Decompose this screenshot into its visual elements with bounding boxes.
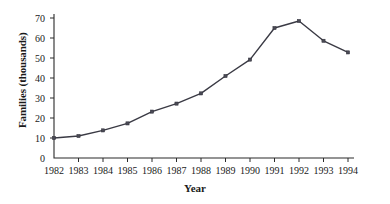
- y-tick-label: 0: [40, 153, 45, 164]
- x-tick-label: 1993: [314, 165, 334, 176]
- data-point-marker: [150, 110, 153, 113]
- data-marker-group: [52, 19, 349, 139]
- data-line-families: [54, 21, 348, 138]
- x-tick-label: 1994: [338, 165, 358, 176]
- x-tick-label: 1986: [142, 165, 162, 176]
- data-point-marker: [126, 122, 129, 125]
- data-point-marker: [77, 134, 80, 137]
- line-chart-figure: Families (thousands) 010203040506070 198…: [0, 0, 390, 204]
- data-point-marker: [273, 26, 276, 29]
- data-point-marker: [199, 92, 202, 95]
- data-point-marker: [297, 19, 300, 22]
- data-point-marker: [175, 102, 178, 105]
- data-point-marker: [52, 136, 55, 139]
- y-tick-label: 30: [35, 93, 45, 104]
- x-axis-title: Year: [0, 182, 390, 194]
- x-tick-label: 1990: [240, 165, 260, 176]
- x-tick-label: 1984: [93, 165, 113, 176]
- axis-lines: [54, 14, 354, 158]
- data-point-marker: [101, 129, 104, 132]
- y-tick-label: 20: [35, 113, 45, 124]
- x-tick-label: 1991: [265, 165, 285, 176]
- data-point-marker: [322, 39, 325, 42]
- y-tick-label: 60: [35, 33, 45, 44]
- data-point-marker: [248, 58, 251, 61]
- y-tick-label: 70: [35, 13, 45, 24]
- x-tick-label: 1985: [118, 165, 138, 176]
- data-point-marker: [346, 51, 349, 54]
- y-tick-label: 10: [35, 133, 45, 144]
- plot-area: 010203040506070 198219831984198519861987…: [0, 0, 390, 204]
- x-tick-label: 1988: [191, 165, 211, 176]
- x-tick-label: 1992: [289, 165, 309, 176]
- x-tick-label: 1983: [69, 165, 89, 176]
- x-tick-label: 1982: [44, 165, 64, 176]
- data-point-marker: [224, 74, 227, 77]
- y-tick-label: 40: [35, 73, 45, 84]
- y-tick-label: 50: [35, 53, 45, 64]
- x-tick-mark-group: [79, 158, 349, 162]
- x-tick-label-group: 1982198319841985198619871988198919901991…: [44, 165, 358, 176]
- y-tick-label-group: 010203040506070: [35, 13, 45, 164]
- x-tick-label: 1987: [167, 165, 187, 176]
- x-tick-label: 1989: [216, 165, 236, 176]
- y-tick-mark-group: [50, 18, 54, 138]
